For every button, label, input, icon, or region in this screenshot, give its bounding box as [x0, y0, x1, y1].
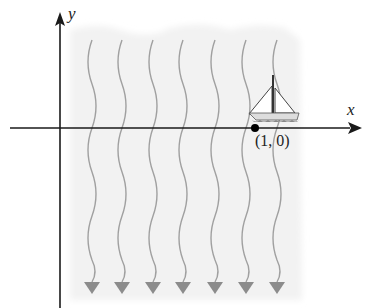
- x-axis-label: x: [347, 100, 355, 120]
- diagram-canvas: [0, 0, 370, 308]
- x-axis-arrow-icon: [348, 122, 362, 134]
- point-label: (1, 0): [255, 132, 290, 150]
- water-region: [70, 24, 302, 300]
- point-marker: [251, 124, 259, 132]
- y-axis-label: y: [68, 4, 76, 24]
